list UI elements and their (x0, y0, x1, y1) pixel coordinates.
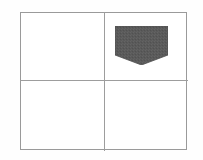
quadrant-bottom-left[interactable] (21, 81, 104, 150)
figure-canvas (0, 0, 203, 160)
quadrant-bottom-right[interactable] (105, 81, 187, 150)
quadrant-top-left[interactable] (21, 13, 104, 80)
pentagon-shield-down-icon[interactable] (115, 26, 168, 65)
